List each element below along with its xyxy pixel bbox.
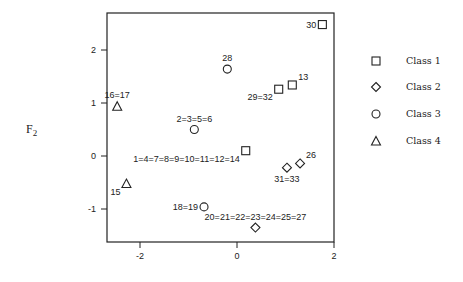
point-label: 26 [306,150,316,160]
y-tick-label: 1 [91,98,96,108]
point-label: 15 [110,187,120,197]
legend-label: Class 1 [406,54,441,68]
point-label: 18=19 [173,202,198,212]
diamond-marker-icon [282,163,291,172]
circle-marker-icon [223,65,231,73]
legend-item-class-1: Class 1 [370,54,382,68]
triangle-marker-icon [122,179,131,188]
y-tick-label: 2 [91,45,96,55]
legend-label: Class 2 [406,80,441,94]
triangle-marker-icon [113,102,122,111]
point-label: 13 [298,72,308,82]
legend-label: Class 4 [406,134,441,148]
square-marker-icon [370,55,382,67]
square-marker-icon [318,21,326,29]
point-label: 28 [222,53,232,63]
square-marker-icon [242,147,250,155]
data-points: 301329=321=4=7=8=9=10=11=12=142631=3320=… [105,20,327,232]
circle-marker-icon [200,203,208,211]
triangle-marker-icon [370,135,382,147]
circle-marker-icon [190,126,198,134]
point-label: 30 [306,20,316,30]
legend-item-class-2: Class 2 [370,80,382,94]
point-label: 1=4=7=8=9=10=11=12=14 [133,154,239,164]
x-tick-label: -2 [136,251,144,261]
circle-marker-icon [370,108,382,120]
x-tick-label: 2 [331,251,336,261]
y-axis: 2 1 0 -1 [88,45,107,214]
diamond-marker-icon [370,81,382,93]
x-axis: -2 0 2 [136,242,337,261]
square-marker-icon [288,81,296,89]
legend-label: Class 3 [406,107,441,121]
point-label: 2=3=5=6 [176,114,212,124]
scatter-plot: 2 1 0 -1 -2 0 2 F2 301329=321=4=7=8=9=10… [0,0,463,282]
diamond-marker-icon [296,159,305,168]
legend-item-class-4: Class 4 [370,134,382,148]
y-axis-label: F2 [26,122,37,138]
y-tick-label: -1 [88,204,96,214]
point-label: 20=21=22=23=24=25=27 [205,212,307,222]
point-label: 16=17 [105,90,130,100]
x-tick-label: 0 [234,251,239,261]
legend-item-class-3: Class 3 [370,107,382,121]
plot-frame [107,13,334,242]
diamond-marker-icon [251,223,260,232]
point-label: 29=32 [247,92,272,102]
square-marker-icon [275,85,283,93]
point-label: 31=33 [274,174,299,184]
y-tick-label: 0 [91,151,96,161]
